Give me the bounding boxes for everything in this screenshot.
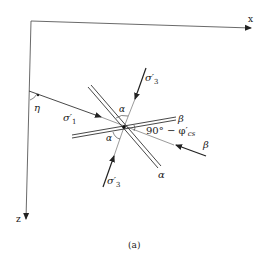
sigma3-lower-label: σ′3 xyxy=(107,175,121,189)
eta-arc-dot xyxy=(37,94,39,96)
sigma3-upper-force: σ′3 xyxy=(124,68,159,127)
eta-label: η xyxy=(34,102,40,113)
sigma1-label: σ′1 xyxy=(63,112,77,126)
axes: x z xyxy=(16,14,253,224)
alpha-upper-label: α xyxy=(119,104,125,114)
beta-force: β xyxy=(176,139,209,156)
sigma3-upper-label: σ′3 xyxy=(145,72,159,86)
intersection-point xyxy=(122,125,126,129)
sigma3-lower-continuation xyxy=(114,127,124,156)
eta-angle-arc xyxy=(30,94,37,100)
alpha-plane-label: α xyxy=(158,169,165,180)
sigma3-upper-continuation xyxy=(124,99,135,127)
beta-force-label: β xyxy=(202,139,209,150)
x-axis-label: x xyxy=(248,14,253,24)
beta-plane-label: β xyxy=(177,113,184,124)
figure-caption: (a) xyxy=(128,240,140,250)
alpha-lower-arc xyxy=(113,132,120,139)
x-axis xyxy=(31,21,251,28)
slip-plane-diagram: x z σ′1 η β σ′3 σ′3 α xyxy=(0,0,269,270)
sigma1-force: σ′1 η xyxy=(29,91,174,145)
z-axis xyxy=(26,21,31,219)
z-axis-label: z xyxy=(16,214,21,224)
alpha-lower-label: α xyxy=(106,133,112,143)
beta-force-line xyxy=(176,145,206,156)
critical-angle-label: 90° − φ′cs xyxy=(146,125,196,138)
